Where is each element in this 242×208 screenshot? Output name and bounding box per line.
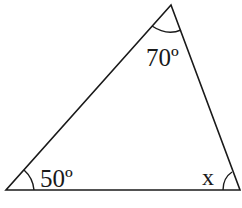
angle-label-top: 70º [146, 44, 179, 71]
angle-label-bottom-left: 50º [40, 165, 73, 192]
triangle-diagram: 70º 50º x [0, 0, 242, 208]
angle-arc-top [152, 26, 181, 32]
angle-arc-bottom-left [24, 170, 34, 190]
angle-label-bottom-right: x [202, 164, 214, 190]
angle-arc-bottom-right [223, 172, 232, 190]
triangle [6, 5, 240, 190]
